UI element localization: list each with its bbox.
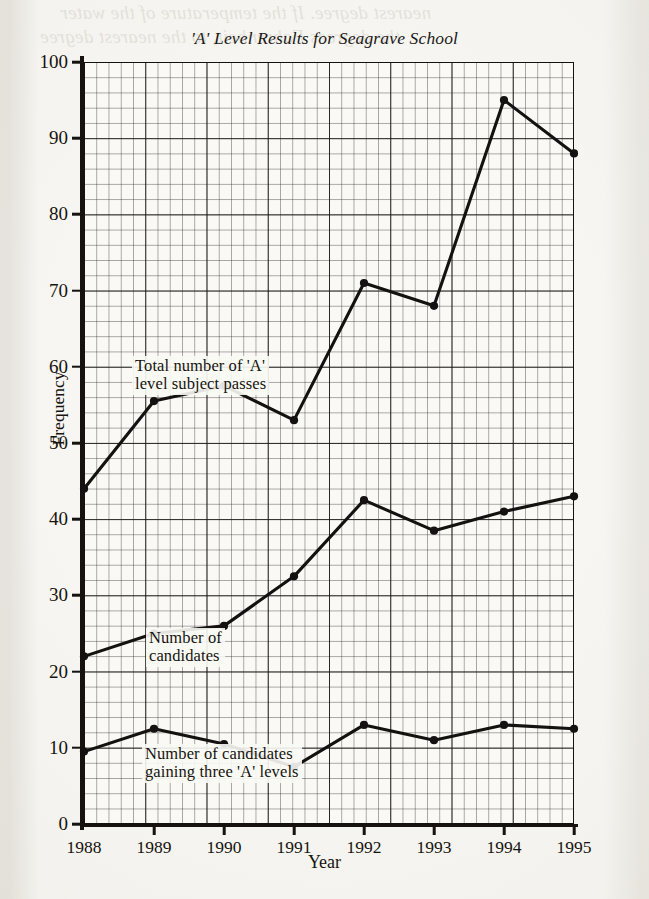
x-axis-tick-mark — [363, 824, 366, 835]
series-1 — [80, 96, 578, 493]
x-axis-tick-mark — [503, 824, 506, 835]
series-annotation-3: Number of candidates gaining three 'A' l… — [142, 744, 302, 783]
y-axis-tick-mark — [72, 61, 84, 64]
chart-title: 'A' Level Results for Seagrave School — [0, 28, 649, 49]
y-axis-tick-mark — [72, 594, 84, 597]
data-point-marker — [500, 721, 508, 729]
scanned-page: nearest degree. If the temperature of th… — [0, 0, 649, 899]
y-axis-tick-mark — [72, 289, 84, 292]
y-axis-tick-mark — [72, 670, 84, 673]
x-axis-tick-mark — [293, 824, 296, 835]
y-axis-tick-label: 10 — [49, 737, 68, 759]
y-axis-tick-mark — [72, 213, 84, 216]
data-point-marker — [500, 507, 508, 515]
y-axis-tick-label: 40 — [49, 508, 68, 530]
x-axis-title: Year — [0, 852, 649, 873]
data-point-marker — [360, 496, 368, 504]
y-axis-tick-mark — [72, 442, 84, 445]
data-point-marker — [570, 725, 578, 733]
data-series-layer — [84, 62, 574, 824]
data-point-marker — [430, 527, 438, 535]
y-axis-tick-label: 70 — [49, 280, 68, 302]
data-point-marker — [360, 721, 368, 729]
x-axis-tick-mark — [433, 824, 436, 835]
data-point-marker — [80, 485, 88, 493]
y-axis-tick-mark — [72, 366, 84, 369]
data-point-marker — [570, 149, 578, 157]
y-axis-tick-mark — [72, 747, 84, 750]
data-point-marker — [430, 736, 438, 744]
y-axis-tick-mark — [72, 823, 84, 826]
y-axis-tick-label: 90 — [49, 127, 68, 149]
y-axis-tick-mark — [72, 518, 84, 521]
x-axis-tick-mark — [153, 824, 156, 835]
y-axis-title: Frequency — [48, 372, 69, 446]
y-axis-tick-label: 0 — [59, 813, 69, 835]
data-point-marker — [150, 725, 158, 733]
bleed-through-text-line1: nearest degree. If the temperature of th… — [60, 2, 431, 24]
data-point-marker — [500, 96, 508, 104]
data-point-marker — [360, 279, 368, 287]
y-axis-tick-label: 100 — [40, 51, 69, 73]
data-point-marker — [80, 652, 88, 660]
x-axis-tick-mark — [573, 824, 576, 835]
series-line — [84, 100, 574, 489]
plot-area: 0102030405060708090100198819891990199119… — [84, 62, 574, 824]
y-axis-tick-mark — [72, 137, 84, 140]
y-axis-tick-label: 20 — [49, 661, 68, 683]
data-point-marker — [150, 397, 158, 405]
series-annotation-1: Total number of 'A' level subject passes — [132, 356, 269, 395]
data-point-marker — [290, 416, 298, 424]
x-axis-tick-mark — [223, 824, 226, 835]
y-axis-tick-label: 80 — [49, 203, 68, 225]
series-annotation-2: Number of candidates — [146, 628, 225, 667]
data-point-marker — [570, 492, 578, 500]
data-point-marker — [430, 302, 438, 310]
data-point-marker — [290, 572, 298, 580]
y-axis-tick-label: 30 — [49, 584, 68, 606]
